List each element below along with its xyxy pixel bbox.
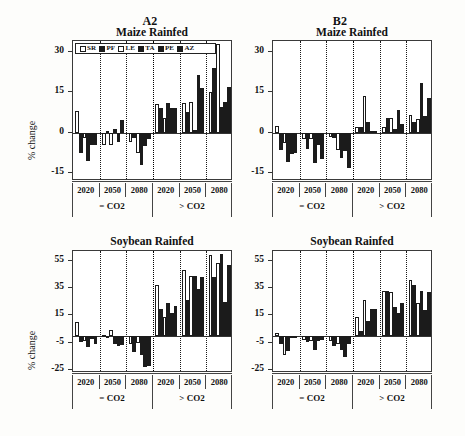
y-tick — [268, 132, 272, 133]
co2-group-label: = CO2 — [272, 201, 352, 211]
legend-label: PE — [165, 45, 174, 52]
legend-label: TA — [145, 45, 154, 52]
legend-item: SR — [80, 45, 96, 52]
legend-item: TA — [138, 45, 155, 52]
x-tick-label-year: 2080 — [125, 375, 152, 389]
group-separator — [300, 41, 301, 179]
bar — [347, 336, 351, 344]
x-axis: 202020502080202020502080= CO2> CO2 — [72, 181, 232, 225]
y-tick — [268, 91, 272, 92]
bar — [374, 309, 378, 336]
co2-group-edge — [72, 375, 73, 409]
co2-group-edge — [352, 183, 353, 217]
legend-label: SR — [87, 45, 96, 52]
legend-swatch-le-icon — [118, 46, 124, 52]
legend-item: AZ — [177, 45, 194, 52]
y-tick-label: -15 — [38, 166, 64, 176]
x-axis-rule — [272, 181, 432, 182]
co2-group-edge — [272, 183, 273, 217]
chart-panel-b2-soybean: Soybean Rainfed-25-515355520202050208020… — [272, 250, 432, 372]
x-tick-label-year: 2020 — [352, 375, 379, 389]
bar — [174, 306, 178, 336]
y-tick — [68, 51, 72, 52]
bar — [147, 133, 151, 140]
bar — [400, 124, 404, 132]
group-separator — [180, 41, 181, 179]
y-tick-label: 30 — [38, 45, 64, 55]
group-separator — [206, 41, 207, 179]
x-tick-label-year: 2050 — [299, 183, 326, 197]
legend-label: AZ — [185, 45, 195, 52]
legend-swatch-pf-icon — [99, 46, 105, 52]
y-tick — [68, 260, 72, 261]
group-separator — [126, 41, 127, 179]
co2-group-label: > CO2 — [352, 393, 432, 403]
y-tick-label: 0 — [238, 126, 264, 136]
x-tick-label-year: 2050 — [99, 375, 126, 389]
bar — [200, 277, 204, 336]
group-separator — [153, 41, 154, 179]
group-separator — [126, 251, 127, 371]
legend-label: PF — [106, 45, 115, 52]
group-separator — [380, 251, 381, 371]
y-tick — [68, 314, 72, 315]
x-tick-label-year: 2020 — [272, 183, 299, 197]
legend-swatch-pe-icon — [158, 46, 164, 52]
x-tick-label-year: 2050 — [179, 375, 206, 389]
y-tick — [268, 314, 272, 315]
bar — [286, 336, 290, 351]
bar — [347, 133, 351, 168]
y-tick-label: -5 — [238, 336, 264, 346]
x-axis: 202020502080202020502080= CO2> CO2 — [72, 373, 232, 417]
bar — [400, 303, 404, 336]
legend-swatch-ta-icon — [138, 46, 144, 52]
x-tick-label-year: 2080 — [405, 183, 432, 197]
x-tick-label-year: 2080 — [405, 375, 432, 389]
x-tick-label-year: 2080 — [325, 375, 352, 389]
x-tick-label-year: 2050 — [379, 375, 406, 389]
y-tick-label: -15 — [238, 166, 264, 176]
y-tick — [68, 369, 72, 370]
co2-group-label: > CO2 — [152, 393, 232, 403]
group-separator — [300, 251, 301, 371]
x-axis-rule — [272, 373, 432, 374]
bar — [294, 133, 298, 153]
x-axis-rule — [72, 373, 232, 374]
legend-swatch-sr-icon — [80, 46, 86, 52]
group-separator — [206, 251, 207, 371]
x-tick-label-year: 2050 — [299, 375, 326, 389]
y-tick — [268, 260, 272, 261]
bar — [174, 108, 178, 132]
co2-group-edge — [152, 183, 153, 217]
co2-group-edge — [272, 375, 273, 409]
co2-group-edge — [431, 183, 432, 217]
group-separator — [180, 251, 181, 371]
y-tick — [68, 91, 72, 92]
bar — [75, 322, 79, 336]
y-tick — [68, 172, 72, 173]
y-tick-label: 30 — [238, 45, 264, 55]
y-tick-label: 35 — [38, 281, 64, 291]
y-tick — [68, 342, 72, 343]
figure-root: A2 B2 % change % change Maize Rainfed-15… — [0, 0, 465, 436]
plot-area — [72, 250, 232, 372]
y-tick-label: 35 — [238, 281, 264, 291]
y-tick-label: 15 — [238, 308, 264, 318]
chart-panel-b2-maize: Maize Rainfed-15015302020205020802020205… — [272, 40, 432, 180]
bar — [106, 336, 110, 338]
group-separator — [380, 41, 381, 179]
group-separator — [153, 251, 154, 371]
bar — [320, 133, 324, 160]
x-tick-label-year: 2020 — [72, 183, 99, 197]
x-tick-label-year: 2050 — [379, 183, 406, 197]
y-tick-label: 15 — [238, 85, 264, 95]
co2-group-edge — [352, 375, 353, 409]
x-tick-label-year: 2050 — [179, 183, 206, 197]
y-tick — [268, 51, 272, 52]
y-tick-label: -5 — [38, 336, 64, 346]
plot-area — [272, 250, 432, 372]
x-tick-label-year: 2080 — [325, 183, 352, 197]
x-tick-label-year: 2020 — [72, 375, 99, 389]
x-axis-rule — [72, 181, 232, 182]
x-tick-label-year: 2080 — [205, 375, 232, 389]
